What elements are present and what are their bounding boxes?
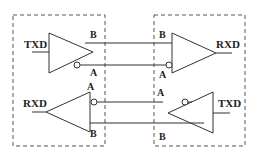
rs485-diagram: TXD B A RXD B A RXD A B TXD [0,0,253,161]
right-driver-b-label: B [159,131,166,142]
right-receiver-rxd-label: RXD [216,38,240,50]
left-receiver-inversion-bubble [91,99,97,105]
right-driver-inversion-bubble [182,99,188,105]
right-receiver-a-label: A [159,69,167,80]
left-receiver-a-label: A [87,81,95,92]
left-receiver: RXD A B [23,81,97,139]
left-driver-txd-label: TXD [24,38,47,50]
right-receiver-b-label: B [159,29,166,40]
right-driver-a-label: A [157,87,165,98]
right-driver-txd-label: TXD [218,97,241,109]
left-driver: TXD B A [24,29,98,78]
left-driver-a-label: A [90,67,98,78]
right-node-box [154,15,245,146]
left-driver-b-label: B [90,29,97,40]
right-driver: TXD A B [157,87,241,142]
left-receiver-b-label: B [90,128,97,139]
right-receiver: RXD B A [159,29,240,80]
left-driver-inversion-bubble [74,62,80,68]
right-receiver-inversion-bubble [166,62,172,68]
left-receiver-rxd-label: RXD [23,97,47,109]
